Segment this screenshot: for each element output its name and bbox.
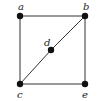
- node-label-b: b: [83, 1, 89, 12]
- node-b: [82, 13, 88, 19]
- node-label-a: a: [18, 1, 24, 12]
- node-e: [82, 81, 88, 87]
- edge-c-d: [20, 50, 51, 84]
- node-c: [17, 81, 23, 87]
- node-label-d: d: [44, 37, 50, 48]
- node-label-e: e: [82, 89, 88, 100]
- node-label-c: c: [17, 89, 23, 100]
- node-a: [17, 13, 23, 19]
- graph-diagram: abcde: [0, 0, 97, 101]
- edge-d-b: [51, 16, 85, 50]
